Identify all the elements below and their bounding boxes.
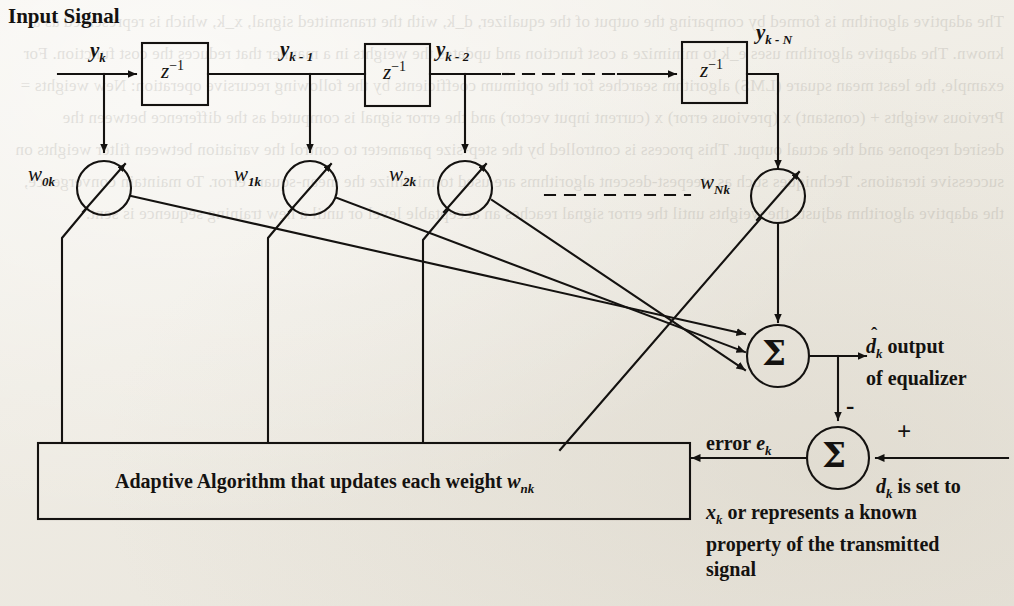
- wire-weight-leg-N-diag: [560, 218, 761, 450]
- delay-label-2: z−1: [383, 59, 406, 85]
- label-tap-2: yk - 2: [436, 37, 469, 65]
- wire-product-0-to-sum: [131, 196, 745, 334]
- desired-note-rest: xk or represents a knownproperty of the …: [706, 500, 939, 582]
- gain-arrow-0: [83, 164, 125, 212]
- label-tap-0: yk: [90, 38, 106, 66]
- error-summer-glyph: Σ: [822, 435, 846, 475]
- weight-label-0: w0k: [28, 162, 55, 190]
- weight-label-N: wNk: [700, 170, 730, 198]
- gain-arrow-2: [444, 164, 486, 212]
- wire-weight-leg-0: [62, 208, 87, 443]
- weight-label-1: w1k: [234, 162, 261, 190]
- tap-drop-N: [747, 74, 778, 168]
- label-tap-N: yk - N: [756, 20, 792, 48]
- minus-sign: -: [846, 392, 854, 420]
- delay-label-3: z−1: [700, 57, 723, 83]
- page-title: Input Signal: [8, 4, 119, 29]
- diagram-stage: Input Signal yk yk - 1 yk - 2 yk - N z−1…: [0, 0, 1014, 606]
- algorithm-box-label: Adaptive Algorithm that updates each wei…: [115, 470, 534, 497]
- delay-label-1: z−1: [161, 58, 184, 84]
- wire-weight-leg-2: [423, 210, 448, 443]
- error-signal-label: error ek: [706, 432, 772, 459]
- equalizer-output-label: ˆdk outputof equalizer: [866, 334, 967, 391]
- wire-weight-leg-1: [268, 208, 293, 443]
- label-tap-1: yk - 1: [280, 37, 313, 65]
- plus-sign: +: [897, 418, 911, 446]
- weight-label-2: w2k: [389, 162, 416, 190]
- output-summer-glyph: Σ: [762, 333, 786, 373]
- gain-arrow-N: [757, 172, 799, 220]
- gain-arrow-1: [289, 164, 331, 212]
